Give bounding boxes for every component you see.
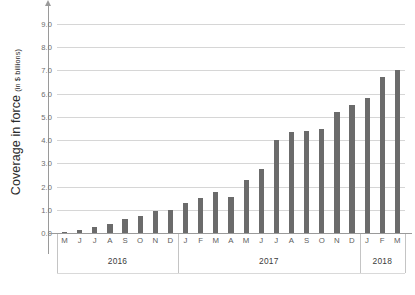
x-axis-month-label: M — [239, 236, 254, 245]
x-axis-year-label: 2018 — [360, 256, 405, 266]
x-axis-month-label: D — [344, 236, 359, 245]
y-axis-tick-label: 1.0 — [41, 205, 52, 214]
x-axis-year-label: 2017 — [178, 256, 360, 266]
x-axis-month-label: J — [269, 236, 284, 245]
bar — [153, 211, 158, 233]
x-axis-month-label: O — [133, 236, 148, 245]
year-group-separator — [405, 234, 406, 273]
y-axis-tick-label: 5.0 — [41, 112, 52, 121]
y-axis-title-units: (in $ billions) — [13, 49, 22, 92]
x-axis-month-label: D — [163, 236, 178, 245]
x-axis-month-label: J — [72, 236, 87, 245]
x-axis-month-label: J — [254, 236, 269, 245]
x-axis-month-label: A — [102, 236, 117, 245]
bar — [168, 210, 173, 233]
bar — [183, 203, 188, 233]
y-axis-tick-label: 6.0 — [41, 89, 52, 98]
bar — [259, 169, 264, 233]
year-group-separator — [178, 234, 179, 273]
x-axis-month-label: M — [208, 236, 223, 245]
bottom-rule — [57, 273, 405, 274]
x-axis-month-label: J — [87, 236, 102, 245]
y-axis-tick-label: 3.0 — [41, 159, 52, 168]
x-axis-month-label: F — [193, 236, 208, 245]
x-axis-month-label: S — [118, 236, 133, 245]
x-axis-month-label: A — [223, 236, 238, 245]
x-axis-month-label: O — [314, 236, 329, 245]
x-axis-month-label: J — [178, 236, 193, 245]
bar — [228, 197, 233, 233]
bar — [213, 192, 218, 233]
bar — [395, 70, 400, 233]
year-group-separator — [57, 234, 58, 273]
bar — [198, 198, 203, 233]
x-axis-year-label: 2016 — [57, 256, 178, 266]
x-axis-month-labels: MJJASONDJFMAMJJASONDJFM — [57, 236, 405, 253]
bar — [289, 132, 294, 233]
bar — [319, 129, 324, 234]
x-axis-month-label: N — [329, 236, 344, 245]
y-axis-tick-label: 9.0 — [41, 20, 52, 29]
bar-chart: Coverage in force (in $ billions) 9.08.0… — [0, 0, 415, 295]
x-axis-month-label: A — [284, 236, 299, 245]
bar — [274, 140, 279, 233]
bar — [107, 224, 112, 233]
y-axis-tick-label: 8.0 — [41, 43, 52, 52]
x-axis-year-labels: 201620172018 — [57, 253, 405, 271]
bar — [365, 98, 370, 233]
y-axis-title-main: Coverage in force — [9, 95, 23, 195]
bar — [304, 131, 309, 233]
y-axis-tick-label: 2.0 — [41, 182, 52, 191]
y-axis-title: Coverage in force (in $ billions) — [9, 17, 29, 227]
x-axis-month-label: F — [375, 236, 390, 245]
bar — [122, 219, 127, 233]
bar — [334, 112, 339, 233]
x-axis-month-label: N — [148, 236, 163, 245]
bar — [138, 216, 143, 233]
x-axis-line — [48, 233, 412, 234]
x-axis-month-label: M — [390, 236, 405, 245]
bar — [380, 77, 385, 233]
y-axis-line — [48, 4, 49, 254]
year-group-separator — [360, 234, 361, 273]
x-axis-month-label: S — [299, 236, 314, 245]
y-axis-tick-label: 4.0 — [41, 136, 52, 145]
bar — [349, 105, 354, 233]
x-axis-month-label: J — [360, 236, 375, 245]
bar-series — [57, 24, 405, 233]
y-axis-tick-label: 7.0 — [41, 66, 52, 75]
plot-area: 9.08.07.06.05.04.03.02.01.00.0 — [57, 24, 405, 233]
x-axis-month-label: M — [57, 236, 72, 245]
bar — [244, 180, 249, 233]
